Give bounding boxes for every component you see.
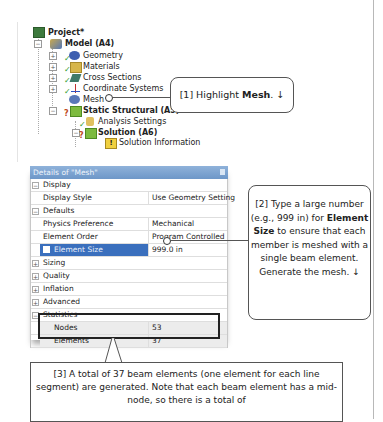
- tree-connector: [38, 36, 39, 134]
- category-quality[interactable]: +Quality: [31, 270, 227, 283]
- element-size-input[interactable]: 999.0 in: [149, 244, 227, 256]
- coordinate-systems-icon: ✓: [68, 84, 80, 94]
- tree-node-materials[interactable]: ✓ Materials: [68, 61, 120, 72]
- tree-node-model[interactable]: Model (A4): [50, 38, 114, 49]
- statistics-highlight-box: [38, 313, 220, 339]
- prop-element-order[interactable]: Element OrderProgram Controlled: [31, 231, 227, 244]
- callout-highlight-mesh: [1] Highlight Mesh. ↓: [170, 77, 294, 113]
- callout-bold-text: Mesh: [242, 89, 270, 100]
- geometry-icon: ✓: [68, 51, 80, 61]
- solution-information-icon: !: [104, 138, 116, 148]
- analysis-settings-icon: ✓: [83, 117, 95, 127]
- tree-node-mesh[interactable]: Mesh: [68, 94, 104, 105]
- callout-text: [3] A total of 37 beam elements (one ele…: [36, 369, 337, 405]
- callout-text: . ↓: [270, 89, 284, 100]
- prop-element-size[interactable]: Element Size999.0 in: [31, 244, 227, 257]
- tree-node-static-structural[interactable]: ? Static Structural (A5): [68, 105, 180, 116]
- category-display[interactable]: −Display: [31, 179, 227, 192]
- display-style-field[interactable]: Use Geometry Setting: [149, 192, 235, 204]
- collapse-toggle[interactable]: −: [49, 107, 57, 115]
- callout-text: [1] Highlight: [180, 89, 242, 100]
- tree-node-coordinate-systems[interactable]: ✓ Coordinate Systems: [68, 83, 163, 94]
- element-order-field[interactable]: Program Controlled: [149, 231, 227, 243]
- solution-icon: ?: [83, 128, 95, 138]
- physics-preference-field[interactable]: Mechanical: [149, 218, 227, 230]
- check-icon: ?: [64, 108, 69, 119]
- tree-node-analysis-settings[interactable]: ✓ Analysis Settings: [83, 116, 166, 127]
- prop-physics-preference[interactable]: Physics PreferenceMechanical: [31, 218, 227, 231]
- expand-toggle[interactable]: +: [49, 63, 57, 71]
- expand-toggle[interactable]: +: [32, 299, 39, 306]
- expand-toggle[interactable]: +: [32, 286, 39, 293]
- expand-toggle[interactable]: +: [32, 260, 39, 267]
- collapse-toggle[interactable]: −: [32, 208, 39, 215]
- prop-display-style[interactable]: Display StyleUse Geometry Setting: [31, 192, 227, 205]
- callout-leader-line: [112, 97, 170, 98]
- project-icon: [33, 27, 45, 38]
- expand-toggle[interactable]: +: [49, 52, 57, 60]
- category-inflation[interactable]: +Inflation: [31, 283, 227, 296]
- category-sizing[interactable]: +Sizing: [31, 257, 227, 270]
- callout-leader-line: [170, 240, 248, 241]
- callout-anchor-dot: [105, 94, 113, 102]
- model-icon: [50, 39, 62, 49]
- materials-icon: ✓: [68, 62, 80, 72]
- cross-sections-icon: ✓: [68, 73, 80, 83]
- callout-pointer: [100, 338, 130, 364]
- parameter-checkbox[interactable]: [43, 246, 50, 253]
- category-defaults[interactable]: −Defaults: [31, 205, 227, 218]
- callout-element-count: [3] A total of 37 beam elements (one ele…: [30, 362, 343, 422]
- tree-node-solution-information[interactable]: ! Solution Information: [104, 137, 200, 148]
- tree-node-geometry[interactable]: ✓ Geometry: [68, 50, 123, 61]
- collapse-toggle[interactable]: −: [32, 182, 39, 189]
- static-structural-icon: ?: [68, 106, 80, 116]
- callout-element-size: [2] Type a large number (e.g., 999 in) f…: [248, 185, 371, 320]
- collapse-toggle[interactable]: −: [34, 40, 42, 48]
- expand-toggle[interactable]: +: [32, 273, 39, 280]
- expand-toggle[interactable]: +: [49, 85, 57, 93]
- check-icon: ?: [79, 130, 84, 141]
- details-title: Details of "Mesh": [33, 168, 98, 177]
- category-advanced[interactable]: +Advanced: [31, 296, 227, 309]
- callout-anchor-dot: [163, 237, 171, 245]
- tree-node-cross-sections[interactable]: ✓ Cross Sections: [68, 72, 141, 83]
- expand-toggle[interactable]: +: [49, 74, 57, 82]
- tree-node-project[interactable]: Project*: [33, 27, 84, 38]
- details-title-bar: Details of "Mesh": [30, 166, 228, 179]
- pin-icon[interactable]: [220, 169, 225, 175]
- mesh-icon: [68, 95, 80, 105]
